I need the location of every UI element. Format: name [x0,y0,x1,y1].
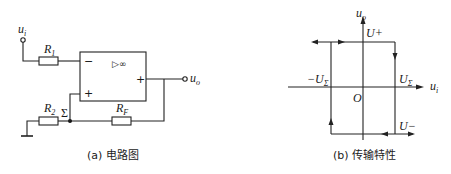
upper-right-arrow-icon [338,40,345,45]
resistor-r1-icon [39,57,58,65]
resistor-rf-icon [112,117,131,125]
output-label: uo [190,71,200,87]
origin-label: O [353,91,362,105]
transfer-caption: (b) 传输特性 [333,148,396,162]
opamp-ideal-symbol: ▷∞ [112,59,126,69]
input-label: ui [18,22,26,38]
circuit-caption: (a) 电路图 [87,149,139,162]
u-minus-label: U− [399,119,416,133]
x-axis-arrow-icon [416,85,424,90]
down-transition-arrow-icon [393,53,398,60]
input-terminal-icon [21,38,25,42]
sigma-label: Σ [61,106,68,120]
r2-label: R2 [43,101,55,117]
output-sign: + [136,73,145,86]
r2-to-ground-wire [27,121,39,136]
rf-label: RF [115,101,128,117]
input-wire [23,42,39,61]
resistor-r2-icon [39,117,58,125]
node-to-noninverting-wire [70,94,80,121]
r1-label: R1 [43,42,55,58]
y-axis-label: uo [356,6,366,22]
circuit-diagram: ui R1 − + + ▷∞ uo RF Σ R2 (a) 电路图 [18,22,200,162]
transfer-characteristic-plot: uo ui O U+ U− UΣ −UΣ (b) 传输特性 [288,6,438,162]
x-axis-label: ui [430,79,438,95]
negative-threshold-label: −UΣ [307,72,329,88]
positive-threshold-label: UΣ [399,72,413,88]
output-terminal-icon [183,77,187,81]
upper-left-arrow-icon [311,40,318,45]
inverting-input-sign: − [84,55,93,68]
noninverting-input-sign: + [84,87,93,100]
up-transition-arrow-icon [329,118,334,125]
figure-canvas: ui R1 − + + ▷∞ uo RF Σ R2 (a) 电路图 [0,0,451,174]
u-plus-label: U+ [366,26,383,40]
lower-left-arrow-icon [381,132,388,137]
